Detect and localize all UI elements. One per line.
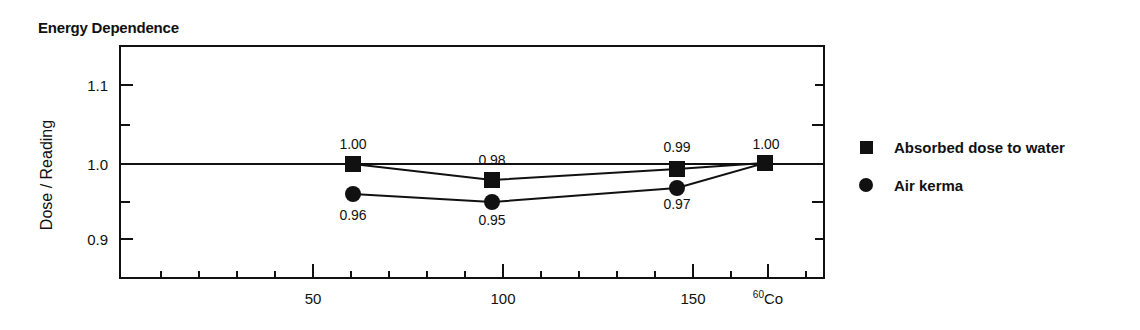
y-right-ticks (812, 85, 824, 239)
data-point-dose-1 (345, 156, 361, 172)
y-major-ticks (120, 85, 133, 239)
series-markers-air-kerma (345, 180, 685, 210)
series-line-absorbed-dose (353, 163, 765, 180)
energy-dependence-chart: Energy Dependence Dose / Reading 1.1 1.0… (0, 0, 1140, 330)
legend-label-absorbed-dose: Absorbed dose to water (894, 139, 1065, 156)
chart-legend: Absorbed dose to water Air kerma (852, 128, 1132, 204)
data-point-dose-2 (484, 172, 500, 188)
data-point-kerma-1 (345, 186, 361, 202)
series-markers-absorbed-dose (345, 155, 773, 188)
legend-item-absorbed-dose: Absorbed dose to water (852, 128, 1132, 166)
x-minor-ticks (161, 271, 806, 278)
data-point-kerma-3 (669, 180, 685, 196)
series-line-air-kerma (353, 163, 765, 202)
data-point-dose-3 (669, 161, 685, 177)
data-point-kerma-2 (484, 194, 500, 210)
legend-label-air-kerma: Air kerma (894, 177, 963, 194)
circle-marker-icon (852, 178, 880, 192)
legend-item-air-kerma: Air kerma (852, 166, 1132, 204)
plot-frame (120, 46, 824, 278)
square-marker-icon (852, 141, 880, 154)
